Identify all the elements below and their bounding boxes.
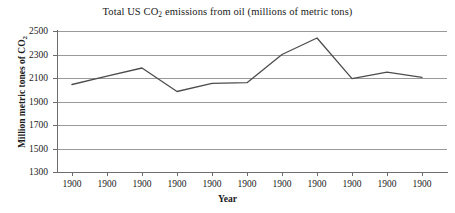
series-layer (0, 0, 455, 213)
line-chart: Total US CO2 emissions from oil (million… (0, 0, 455, 213)
series-line-total-us-co2-emissions (72, 38, 422, 92)
x-axis-title: Year (0, 194, 455, 205)
